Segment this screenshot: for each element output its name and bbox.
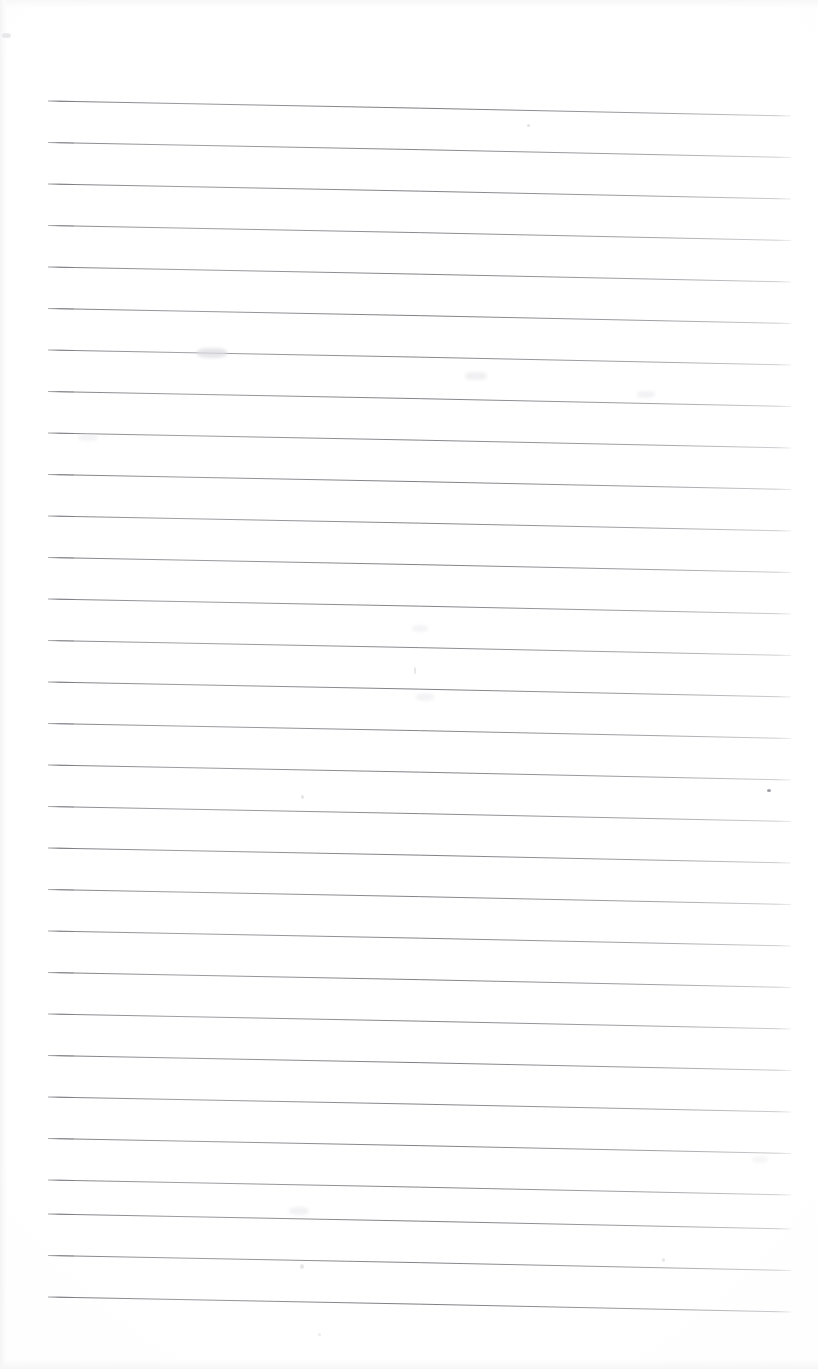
ruled-line — [48, 1214, 791, 1229]
ruled-line — [48, 475, 791, 490]
ruled-line — [48, 599, 791, 614]
ruled-line — [48, 143, 791, 158]
ruled-line — [48, 101, 791, 116]
ruled-line — [48, 931, 791, 946]
ruled-line — [48, 1256, 791, 1271]
ruled-line — [48, 641, 791, 656]
ruled-line — [48, 1014, 791, 1029]
ruled-line — [48, 1139, 791, 1154]
ruled-line — [48, 1297, 791, 1312]
ruled-line — [48, 765, 791, 780]
ruled-line — [48, 1056, 791, 1071]
ruled-line — [48, 724, 791, 739]
ruled-line — [48, 848, 791, 863]
ruled-line — [48, 267, 791, 282]
ruled-line — [48, 890, 791, 905]
ruled-line — [48, 433, 791, 448]
ruled-line — [48, 1097, 791, 1112]
scanned-page — [0, 0, 818, 1369]
ruled-line — [48, 973, 791, 988]
ruled-line — [48, 309, 791, 324]
ruled-line — [48, 682, 791, 697]
ruled-line — [48, 350, 791, 365]
ruled-line — [48, 516, 791, 531]
ruled-line — [48, 184, 791, 199]
ruled-line — [48, 392, 791, 407]
ruled-line — [48, 1180, 791, 1195]
ruled-line — [48, 226, 791, 241]
ruled-line — [48, 558, 791, 573]
ruled-lines-group — [0, 0, 818, 1369]
ruled-line — [48, 807, 791, 822]
